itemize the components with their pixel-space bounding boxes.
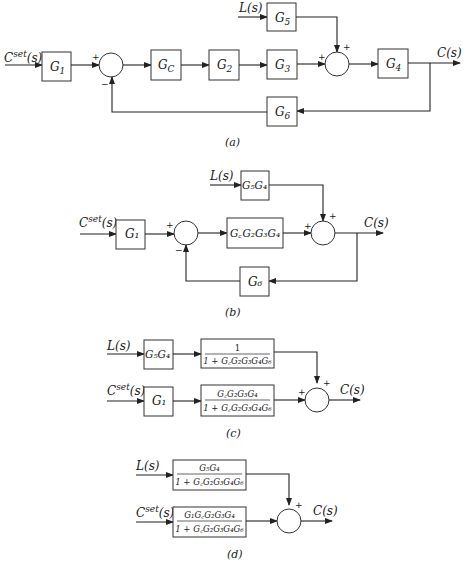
sign-plus: +	[343, 42, 351, 52]
output-label-b: C(s)	[364, 216, 389, 230]
block-forward-label-b: G꜀G₂G₃G₄	[230, 227, 280, 239]
output-label-c: C(s)	[340, 383, 365, 397]
load-tf-numerator-d: G₅G₄	[199, 463, 220, 473]
summing-junction-1-b	[174, 221, 198, 245]
caption-c: (c)	[226, 427, 241, 440]
setpoint-input-label-b: Cset(s)	[79, 214, 118, 230]
setpoint-input-label-d: Cset(s)	[136, 504, 175, 520]
block-diagram-canvas: Cset(s) G1 + − GC G2 G3 L(s) G5 + +	[0, 0, 470, 564]
sign-plus: +	[318, 52, 326, 62]
block-g5g4-label-b: G₅G₄	[242, 179, 267, 191]
block-g5g4-label-c: G₅G₄	[145, 348, 170, 360]
sign-minus: −	[101, 79, 109, 89]
block-g1-label-c: G₁	[152, 394, 166, 408]
summing-junction-1-a	[99, 53, 123, 77]
load-tf-numerator-c: 1	[235, 343, 240, 353]
sign-plus: +	[298, 387, 306, 397]
diagram-d: L(s) G₅G₄ 1 + G꜀G₂G₃G₄G₆ Cset(s) G₁G꜀G₂G…	[135, 459, 338, 561]
caption-d: (d)	[227, 548, 243, 561]
load-input-label-d: L(s)	[135, 459, 160, 473]
diagram-b: Cset(s) G₁ + − G꜀G₂G₃G₄ L(s) G₅G₄ + + C(…	[79, 169, 389, 319]
sign-minus: −	[175, 245, 183, 255]
sign-plus: +	[323, 378, 331, 388]
summing-junction-2-b	[311, 221, 335, 245]
load-input-label-a: L(s)	[238, 1, 263, 15]
sp-tf-numerator-c: G꜀G₂G₃G₄	[217, 389, 258, 399]
load-input-label-b: L(s)	[209, 169, 234, 183]
sp-tf-denominator-c: 1 + G꜀G₂G₃G₄G₆	[203, 403, 272, 413]
summing-junction-2-a	[325, 52, 349, 76]
sp-tf-denominator-d: 1 + G꜀G₂G₃G₄G₆	[175, 524, 244, 534]
caption-b: (b)	[225, 306, 241, 319]
sign-plus: +	[304, 221, 312, 231]
diagram-a: Cset(s) G1 + − GC G2 G3 L(s) G5 + +	[4, 1, 462, 149]
load-tf-denominator-d: 1 + G꜀G₂G₃G₄G₆	[175, 477, 244, 487]
load-input-label-c: L(s)	[106, 339, 131, 353]
block-g1-label-b: G₁	[125, 227, 139, 241]
setpoint-input-label-c: Cset(s)	[107, 382, 146, 398]
summing-junction-d	[277, 509, 301, 533]
sp-tf-numerator-d: G₁G꜀G₂G₃G₄	[184, 510, 235, 520]
sign-plus: +	[329, 211, 337, 221]
block-g6-label-b: G₆	[248, 275, 263, 289]
setpoint-input-label-a: Cset(s)	[4, 49, 43, 65]
sign-plus: +	[295, 500, 303, 510]
output-label-a: C(s)	[437, 46, 462, 60]
load-tf-denominator-c: 1 + G꜀G₂G₃G₄G₆	[203, 356, 272, 366]
diagram-c: L(s) G₅G₄ 1 1 + G꜀G₂G₃G₄G₆ Cset(s) G₁ G꜀…	[106, 339, 365, 440]
output-label-d: C(s)	[313, 504, 338, 518]
caption-a: (a)	[225, 136, 240, 149]
summing-junction-c	[305, 388, 329, 412]
sign-plus: +	[92, 52, 100, 62]
sign-plus: +	[166, 220, 174, 230]
